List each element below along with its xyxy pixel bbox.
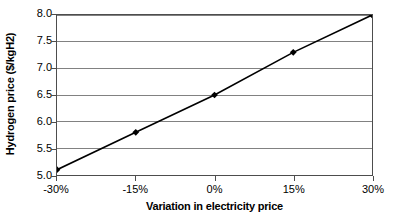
data-series <box>57 15 372 173</box>
y-axis-tick-mark <box>51 14 56 15</box>
line-chart: Hydrogen price ($/kgH2) 5.05.56.06.57.07… <box>0 0 393 221</box>
y-axis-tick-label: 5.0 <box>18 170 52 181</box>
y-axis-tick-label: 6.0 <box>18 116 52 127</box>
data-point-marker <box>211 92 218 99</box>
x-axis-tick-label: 30% <box>343 183 393 195</box>
y-axis-tick-label: 7.5 <box>18 35 52 46</box>
x-axis-tick-mark <box>294 176 295 181</box>
x-axis-tick-label: 0% <box>185 183 245 195</box>
x-axis-tick-mark <box>373 176 374 181</box>
x-axis-tick-mark <box>135 176 136 181</box>
x-axis-tick-mark <box>56 176 57 181</box>
series-markers <box>57 15 372 173</box>
y-axis-tick-mark <box>51 95 56 96</box>
x-axis-title: Variation in electricity price <box>56 199 373 213</box>
plot-svg <box>57 15 372 175</box>
x-axis-tick-label: 15% <box>264 183 324 195</box>
data-point-marker <box>57 166 60 173</box>
y-axis-tick-label: 6.5 <box>18 89 52 100</box>
y-axis-tick-mark <box>51 68 56 69</box>
y-axis-tick-mark <box>51 149 56 150</box>
x-axis-tick-label: -30% <box>26 183 86 195</box>
data-point-marker <box>132 129 139 136</box>
y-axis-tick-label: 5.5 <box>18 143 52 154</box>
y-axis-tick-mark <box>51 41 56 42</box>
x-axis-tick-label: -15% <box>105 183 165 195</box>
y-axis-tick-mark <box>51 122 56 123</box>
y-axis-tick-label: 7.0 <box>18 62 52 73</box>
y-axis-tick-label: 8.0 <box>18 8 52 19</box>
data-point-marker <box>290 49 297 56</box>
x-axis-tick-mark <box>215 176 216 181</box>
plot-area <box>56 14 373 176</box>
